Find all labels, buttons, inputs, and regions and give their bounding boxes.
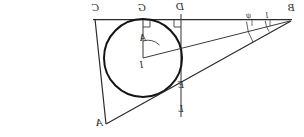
right-angle-mark-D [174, 20, 181, 27]
label-point-d: D [176, 1, 184, 12]
line-segment-AB [106, 21, 291, 124]
right-angle-mark-G [143, 20, 150, 27]
label-angle-phi: 1 [265, 12, 269, 20]
label-point-a: A [96, 117, 103, 128]
label-point-b: B [288, 2, 295, 13]
label-point-l: L [178, 104, 184, 114]
label-point-g: G [138, 2, 146, 13]
geometry-figure [0, 0, 304, 137]
label-point-i: I [140, 60, 143, 70]
line-segment-CA [95, 19, 106, 124]
label-point-e: E [178, 80, 184, 90]
label-angle-alpha: A [140, 33, 146, 43]
label-point-c: C [92, 2, 99, 13]
diagram-canvas: C G D B A I E L A ψ 1 [0, 0, 304, 137]
label-angle-psi: ψ [246, 12, 251, 20]
